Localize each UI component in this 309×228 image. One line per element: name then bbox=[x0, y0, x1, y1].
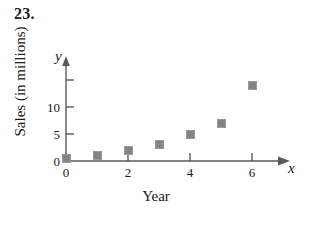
data-point-marker bbox=[62, 154, 71, 163]
y-axis-arrowhead bbox=[62, 56, 70, 66]
x-axis-variable-label: x bbox=[288, 160, 295, 177]
y-tick-label-10: 10 bbox=[30, 100, 60, 116]
data-point-marker bbox=[93, 151, 102, 160]
data-point-marker bbox=[248, 81, 257, 90]
x-tick-label-2: 2 bbox=[118, 165, 138, 181]
x-axis-title: Year bbox=[96, 188, 216, 205]
x-tick-label-4: 4 bbox=[180, 165, 200, 181]
x-tick-label-6: 6 bbox=[242, 165, 262, 181]
y-axis-title: Sales (in millions) bbox=[12, 0, 29, 167]
data-point-marker bbox=[155, 140, 164, 149]
data-point-marker bbox=[124, 146, 133, 155]
y-tick-label-5: 5 bbox=[30, 127, 60, 143]
data-point-marker bbox=[217, 119, 226, 128]
data-point-marker bbox=[186, 130, 195, 139]
scatter-plot: y x 10 5 0 0 2 4 6 Sales (in millions) Y… bbox=[0, 0, 309, 228]
y-axis-variable-label: y bbox=[55, 48, 62, 65]
x-tick-label-0: 0 bbox=[56, 165, 76, 181]
